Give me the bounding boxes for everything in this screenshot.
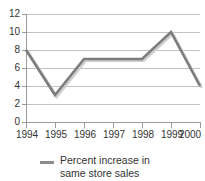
legend-label: Percent increase in same store sales bbox=[60, 154, 180, 180]
chart-legend: Percent increase in same store sales bbox=[0, 152, 205, 181]
series-line-percent-increase bbox=[26, 32, 200, 95]
line-marker-icon bbox=[40, 161, 54, 164]
legend-label-line2: same store sales bbox=[60, 167, 139, 179]
chart-figure: 12 10 8 6 4 2 0 1994 1995 1996 1997 1998… bbox=[0, 0, 205, 181]
legend-label-line1: Percent increase in bbox=[60, 154, 150, 166]
